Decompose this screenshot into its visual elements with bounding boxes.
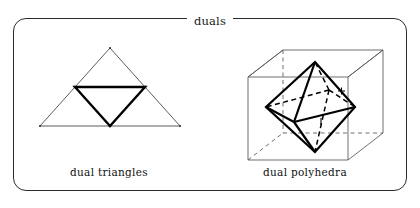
cube-front-face xyxy=(248,77,348,160)
vertex-dot xyxy=(179,125,181,127)
medial-triangle xyxy=(75,87,145,126)
vertex-dot xyxy=(74,86,77,89)
vertex-dot xyxy=(109,47,111,49)
caption-dual-triangles: dual triangles xyxy=(24,166,194,178)
cube-hidden-left-edge xyxy=(248,133,283,160)
caption-dual-polyhedra: dual polyhedra xyxy=(205,166,405,178)
vertex-dot xyxy=(39,125,41,127)
figure-page: duals dual triangles xyxy=(0,0,420,208)
octahedron xyxy=(266,62,355,152)
panel-dual-polyhedra: dual polyhedra xyxy=(205,34,405,184)
dual-polyhedra-drawing xyxy=(205,34,405,174)
dual-triangles-drawing xyxy=(24,34,194,144)
panel-dual-triangles: dual triangles xyxy=(24,34,194,184)
cube-edge xyxy=(248,50,283,77)
vertex-dot xyxy=(144,86,147,89)
vertex-dot xyxy=(109,125,112,128)
